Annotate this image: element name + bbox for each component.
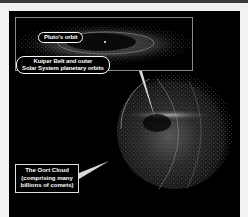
diagram-frame: Pluto's orbit Kuiper Belt and outer Sola… [9, 11, 240, 217]
oort-cloud-sphere [117, 73, 233, 189]
oort-cloud-label-line2: (comprising many [17, 175, 77, 183]
oort-cloud-label-line3: billions of comets) [17, 182, 77, 190]
kuiper-belt-label-line2: Solar System planetary orbits [22, 65, 104, 72]
oort-cloud-label: The Oort Cloud (comprising many billions… [15, 164, 79, 193]
oort-label-pointer [79, 161, 109, 179]
oort-cloud-label-line1: The Oort Cloud [17, 167, 77, 175]
plutos-orbit-label: Pluto's orbit [38, 32, 83, 43]
kuiper-belt-label-line1: Kuiper Belt and outer [22, 58, 104, 65]
top-bar [0, 0, 248, 3]
kuiper-belt-label: Kuiper Belt and outer Solar System plane… [16, 56, 110, 74]
